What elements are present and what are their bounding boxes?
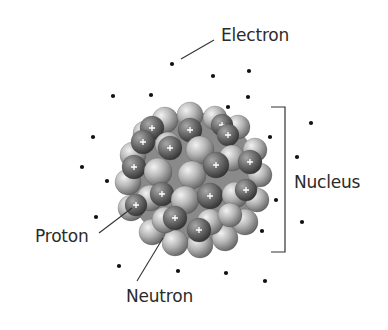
- electron-dot: [94, 215, 98, 219]
- proton-sphere: [238, 150, 262, 174]
- electron-dot: [260, 229, 264, 233]
- proton-sphere: [203, 152, 229, 178]
- bracket-line: [271, 107, 285, 252]
- electron-dot: [211, 74, 215, 78]
- electron-dot: [117, 264, 121, 268]
- proton-sphere: [131, 130, 155, 154]
- electron-dot: [274, 198, 278, 202]
- electron-dot: [246, 95, 250, 99]
- electron-dot: [268, 135, 272, 139]
- proton-sphere: [197, 183, 223, 209]
- atom-diagram-graphic: [0, 0, 388, 330]
- proton-sphere: [163, 206, 187, 230]
- neutron-sphere: [178, 161, 206, 189]
- electron-dot: [224, 271, 228, 275]
- proton-sphere: [217, 124, 239, 146]
- neutron-sphere: [162, 230, 188, 256]
- neutron-sphere: [218, 203, 242, 227]
- electron-dot: [300, 220, 304, 224]
- electron-dot: [247, 69, 251, 73]
- electron-dot: [170, 62, 174, 66]
- electron-dot: [111, 94, 115, 98]
- electron-dot: [263, 279, 267, 283]
- electron-dot: [176, 269, 180, 273]
- proton-sphere: [122, 155, 146, 179]
- nucleus-cluster: [115, 102, 272, 258]
- electron-leader: [181, 40, 214, 59]
- proton-sphere: [158, 136, 182, 160]
- electron-dot: [91, 135, 95, 139]
- proton-sphere: [187, 218, 211, 242]
- electron-dot: [80, 165, 84, 169]
- nucleus-label: Nucleus: [294, 174, 360, 191]
- proton-label: Proton: [35, 228, 89, 245]
- neutron-sphere: [144, 158, 172, 186]
- electron-dot: [105, 179, 109, 183]
- electron-dot: [309, 121, 313, 125]
- nucleus-bracket: [271, 107, 285, 252]
- neutron-label: Neutron: [126, 288, 193, 305]
- electron-dot: [295, 155, 299, 159]
- atom-diagram: Electron Nucleus Proton Neutron: [0, 0, 388, 330]
- proton-sphere: [150, 182, 174, 206]
- electron-label: Electron: [221, 27, 289, 44]
- proton-sphere: [235, 179, 257, 201]
- electron-dot: [149, 93, 153, 97]
- proton-sphere: [125, 194, 147, 216]
- electron-dot: [226, 105, 230, 109]
